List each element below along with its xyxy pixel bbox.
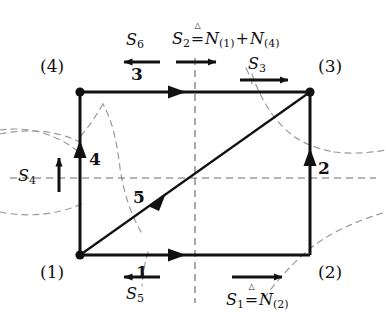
node-dot-3 [305, 87, 314, 96]
edge-5-arrowhead [148, 193, 166, 211]
cut-label-s3: S3 [248, 56, 266, 74]
cut-curve-s3 [252, 74, 334, 152]
node-label-2: (2) [318, 264, 342, 281]
cut-s2-n4-sub: (4) [264, 37, 280, 50]
cut-curve-s3-right [334, 150, 386, 153]
cut-curve-left-node4 [80, 104, 103, 137]
node-label-3: (3) [318, 58, 342, 75]
cut-s3-letter: S [248, 54, 259, 73]
cut-s2-n1-sub: (1) [219, 37, 235, 50]
cut-s1-sub: 1 [237, 298, 244, 311]
cut-s2-letter: S [172, 29, 183, 48]
triangle-glyph-s2: △ [190, 22, 205, 30]
node-dot-1 [75, 250, 84, 259]
cut-curve-s4-lower [0, 204, 82, 215]
cut-s1-n-letter: N [259, 290, 273, 309]
cut-s5-letter: S [126, 284, 137, 303]
figure-canvas: (4) (3) (1) (2) 3 4 2 1 5 S6 S2△=N(1)+N(… [0, 0, 386, 327]
cut-s2-n4-letter: N [250, 29, 264, 48]
cut-s2-n1-letter: N [205, 29, 219, 48]
cut-label-s2: S2△=N(1)+N(4) [172, 31, 280, 49]
cut-s6-sub: 6 [137, 38, 144, 51]
triangle-equals-s1: △= [244, 292, 259, 308]
edge-3-arrowhead [168, 86, 186, 99]
triangle-glyph-s1: △ [244, 283, 259, 291]
cut-s4-letter: S [18, 166, 29, 185]
cut-label-s5: S5 [126, 286, 144, 304]
triangle-equals-s2: △= [190, 31, 205, 47]
cut-s2-sub: 2 [183, 37, 190, 50]
edge-label-1: 1 [136, 264, 148, 281]
node-label-1: (1) [40, 264, 64, 281]
edge-label-3: 3 [131, 66, 143, 83]
cut-s5-sub: 5 [137, 292, 144, 305]
edge-label-5: 5 [133, 189, 145, 206]
cut-s2-plus: + [235, 29, 250, 48]
cut-s1-letter: S [226, 290, 237, 309]
edge-2-arrowhead [304, 148, 317, 166]
cut-label-s6: S6 [126, 32, 144, 50]
edge-label-4: 4 [89, 151, 101, 168]
cut-curve-s5 [103, 104, 141, 232]
cut-s1-n-sub: (2) [273, 298, 289, 311]
cut-s3-sub: 3 [259, 62, 266, 75]
edge-label-2: 2 [318, 160, 330, 177]
cut-s4-sub: 4 [29, 174, 36, 187]
cut-curve-s4-upper [0, 131, 80, 142]
edge-1-arrowhead [168, 249, 186, 262]
cut-label-s1: S1△=N(2) [226, 292, 289, 310]
node-label-4: (4) [40, 58, 64, 75]
node-dot-4 [75, 87, 84, 96]
cut-label-s4: S4 [18, 168, 36, 186]
cut-s6-letter: S [126, 30, 137, 49]
